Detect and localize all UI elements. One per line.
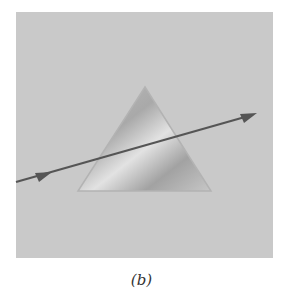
arrowhead-icon	[35, 172, 52, 182]
prism-diagram	[0, 0, 283, 289]
figure-caption: (b)	[0, 271, 283, 289]
arrowhead-icon	[240, 113, 257, 123]
prism-triangle	[78, 87, 211, 191]
